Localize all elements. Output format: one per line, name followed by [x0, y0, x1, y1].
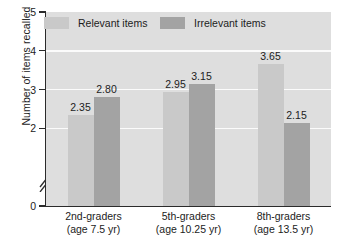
- x-axis-label-0-age: (age 7.5 yr): [39, 223, 149, 236]
- x-axis-label-2-age: (age 13.5 yr): [229, 223, 339, 236]
- x-axis-label-2: 8th-graders(age 13.5 yr): [229, 210, 339, 235]
- y-tick-label-2: 2: [14, 122, 36, 134]
- y-tick-label-3: 3: [14, 84, 36, 96]
- y-axis-line: [45, 12, 46, 207]
- bar-chart-figure: Number of items recalled 02345 2.352.802…: [0, 0, 339, 249]
- gridline-4: [46, 50, 331, 52]
- bar-relevant-1: [163, 92, 189, 206]
- y-tick-label-4: 4: [14, 45, 36, 57]
- bar-value-label-irrelevant-2: 2.15: [286, 109, 306, 121]
- legend-swatch-relevant: [44, 17, 69, 29]
- legend-label-irrelevant: Irrelevant items: [194, 17, 266, 29]
- x-axis-label-1-age: (age 10.25 yr): [134, 223, 244, 236]
- bar-value-label-relevant-1: 2.95: [165, 78, 185, 90]
- legend-swatch-irrelevant: [160, 17, 185, 29]
- legend-item-irrelevant: Irrelevant items: [160, 17, 266, 29]
- y-tick-label-5: 5: [14, 6, 36, 18]
- bar-value-label-irrelevant-0: 2.80: [96, 83, 116, 95]
- x-axis-label-1: 5th-graders(age 10.25 yr): [134, 210, 244, 235]
- x-axis-label-0: 2nd-graders(age 7.5 yr): [39, 210, 149, 235]
- x-axis-label-0-grade: 2nd-graders: [65, 210, 122, 222]
- legend-item-relevant: Relevant items: [44, 17, 147, 29]
- x-axis-label-2-grade: 8th-graders: [257, 210, 311, 222]
- bar-irrelevant-0: [94, 97, 120, 206]
- bar-irrelevant-2: [284, 123, 310, 206]
- bar-relevant-0: [68, 115, 94, 206]
- bar-relevant-2: [258, 64, 284, 206]
- y-tick-label-0: 0: [14, 200, 36, 212]
- legend-label-relevant: Relevant items: [78, 17, 147, 29]
- bar-value-label-relevant-0: 2.35: [70, 101, 90, 113]
- bar-irrelevant-1: [189, 84, 215, 206]
- bar-value-label-irrelevant-1: 3.15: [191, 70, 211, 82]
- x-axis-label-1-grade: 5th-graders: [162, 210, 216, 222]
- x-axis-line: [45, 206, 331, 207]
- bar-value-label-relevant-2: 3.65: [260, 50, 280, 62]
